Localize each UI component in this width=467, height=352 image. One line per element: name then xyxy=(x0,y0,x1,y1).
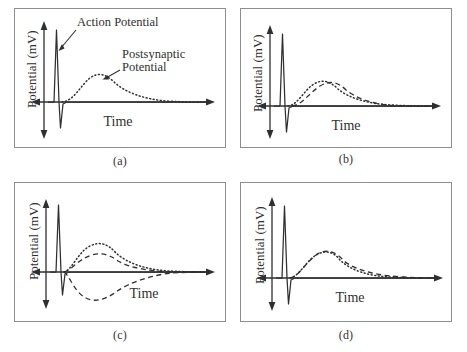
y-axis-label-d: Potential (mV) xyxy=(252,206,267,284)
panel-c: Potential (mV) Time (c) xyxy=(14,182,226,350)
annotation-postsynaptic-arrow xyxy=(103,70,121,80)
panel-c-caption: (c) xyxy=(14,328,226,343)
y-axis-label-c: Potential (mV) xyxy=(26,202,41,280)
postsynaptic-potential-dashed-b xyxy=(292,83,434,107)
y-axis-label-b: Potential (mV) xyxy=(250,34,265,112)
y-axis-b xyxy=(267,25,274,139)
panel-b: Potential (mV) Time (b) xyxy=(240,8,452,176)
panel-c-plot: Potential (mV) Time xyxy=(14,182,226,322)
annotation-action-potential: Action Potential xyxy=(77,15,159,29)
y-axis-d xyxy=(269,197,276,311)
panel-b-plot: Potential (mV) Time xyxy=(240,8,452,148)
panel-d-plot: Potential (mV) Time xyxy=(240,182,452,322)
y-axis-a xyxy=(41,21,48,139)
panel-d-caption: (d) xyxy=(240,328,452,343)
figure-container: Potential (mV) Time Action Potential Pos… xyxy=(0,0,467,352)
x-axis-label-d: Time xyxy=(335,290,364,305)
y-axis-c xyxy=(43,199,50,309)
annotation-action-potential-arrow xyxy=(59,30,77,51)
excitatory-potential-dashed-c xyxy=(64,254,208,272)
postsynaptic-potential-dotted-d xyxy=(290,252,436,278)
annotation-postsynaptic-line1: Postsynaptic xyxy=(122,47,186,61)
panel-a-caption: (a) xyxy=(14,154,226,169)
panel-b-caption: (b) xyxy=(240,152,452,167)
panel-a: Potential (mV) Time Action Potential Pos… xyxy=(14,8,226,176)
postsynaptic-potential-dotted-b xyxy=(288,81,434,106)
panel-d: Potential (mV) Time (d) xyxy=(240,182,452,350)
x-axis-label-c: Time xyxy=(129,286,158,301)
panel-a-plot: Potential (mV) Time Action Potential Pos… xyxy=(14,8,226,148)
y-axis-label-a: Potential (mV) xyxy=(24,30,39,108)
postsynaptic-potential-dotted-a xyxy=(62,75,208,102)
panel-grid: Potential (mV) Time Action Potential Pos… xyxy=(0,0,467,352)
x-axis-label-b: Time xyxy=(331,118,360,133)
postsynaptic-potential-dashed-d xyxy=(290,251,436,278)
annotation-postsynaptic-line2: Potential xyxy=(122,60,167,74)
x-axis-label-a: Time xyxy=(103,114,132,129)
action-potential-spike-c xyxy=(50,205,210,295)
